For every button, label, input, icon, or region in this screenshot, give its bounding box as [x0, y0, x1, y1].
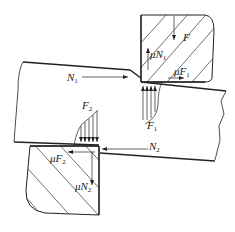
upper-blade — [130, 5, 235, 90]
label-N2: N2 — [148, 140, 160, 154]
label-F2: F2 — [81, 99, 93, 113]
shearing-diagram: F μN1 μF1 N1 F1 F2 N2 μF2 μN2 — [0, 0, 235, 232]
label-F1: F1 — [146, 119, 158, 133]
diagram-svg: F μN1 μF1 N1 F1 F2 N2 μF2 μN2 — [0, 0, 235, 232]
label-F: F — [182, 31, 190, 43]
lower-blade — [15, 140, 110, 232]
pressure-distribution-F2 — [74, 110, 98, 145]
pressure-distribution-F1 — [143, 82, 162, 124]
label-N1: N1 — [66, 71, 78, 85]
